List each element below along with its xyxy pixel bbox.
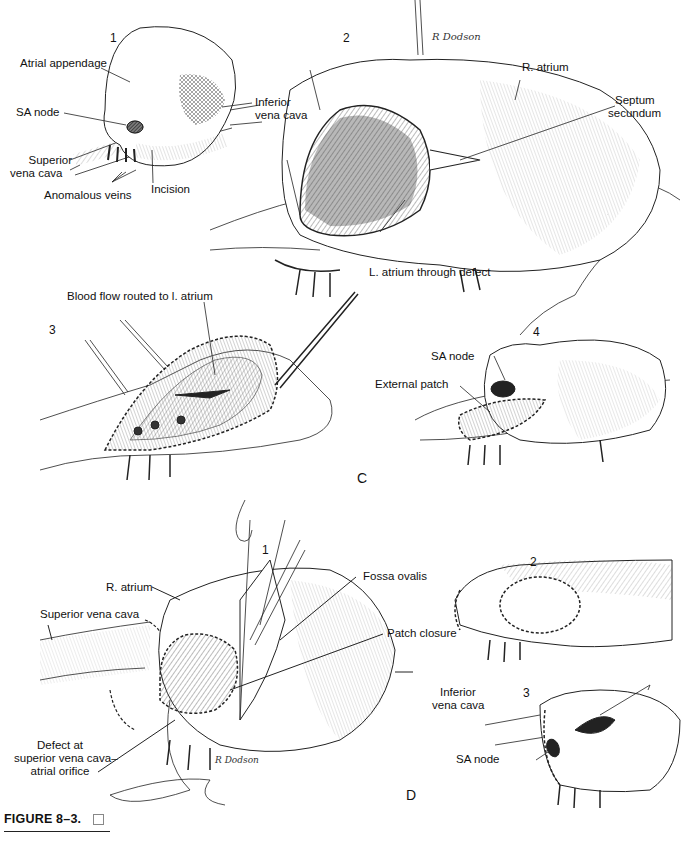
illustration-c2: R Dodson — [210, 0, 680, 297]
c2-number: 2 — [343, 31, 350, 45]
label-superior-vena-cava-c1b: vena cava — [10, 167, 62, 180]
d1-number: 1 — [262, 543, 269, 557]
c1-number: 1 — [110, 31, 117, 45]
d2-number: 2 — [530, 555, 537, 569]
label-incision: Incision — [151, 183, 190, 196]
figure-caption-text: FIGURE 8–3. — [4, 812, 81, 826]
label-defect-a: Defect at — [14, 739, 106, 752]
label-septum-secundum-a: Septum — [615, 94, 655, 107]
label-external-patch: External patch — [375, 378, 449, 391]
illustration-c1 — [64, 27, 262, 183]
label-defect-c: atrial orifice — [14, 765, 106, 778]
label-blood-flow: Blood flow routed to l. atrium — [67, 290, 213, 303]
c3-number: 3 — [49, 323, 56, 337]
label-inferior-vena-cava-d1b: vena cava — [432, 699, 484, 712]
label-sa-node-c4: SA node — [431, 350, 474, 363]
label-superior-vena-cava-c1a: Superior — [20, 154, 72, 167]
illustration-c3 — [40, 292, 358, 480]
c4-number: 4 — [533, 325, 540, 339]
label-inferior-vena-cava-c1a: Inferior — [255, 96, 291, 109]
label-sa-node-c1: SA node — [16, 106, 59, 119]
label-inferior-vena-cava-c1b: vena cava — [255, 109, 307, 122]
checkbox-icon — [93, 814, 104, 825]
illustration-d3 — [485, 685, 680, 808]
figure-caption: FIGURE 8–3. — [4, 812, 104, 826]
label-r-atrium-c2: R. atrium — [522, 61, 569, 74]
label-fossa-ovalis: Fossa ovalis — [363, 570, 427, 583]
label-sa-node-d3: SA node — [456, 753, 499, 766]
panel-letter-d: D — [406, 787, 416, 803]
label-defect-b: superior vena cava– — [14, 752, 118, 765]
panel-letter-c: C — [357, 470, 367, 486]
label-patch-closure: Patch closure — [387, 627, 457, 640]
d3-number: 3 — [523, 686, 530, 700]
caption-underline — [4, 831, 110, 832]
label-atrial-appendage: Atrial appendage — [20, 57, 107, 70]
signature-d1: R Dodson — [214, 755, 259, 765]
label-inferior-vena-cava-d1a: Inferior — [440, 686, 476, 699]
label-septum-secundum-b: secundum — [608, 107, 661, 120]
label-l-atrium-through-defect: L. atrium through defect — [369, 266, 490, 279]
label-r-atrium-d1: R. atrium — [106, 581, 153, 594]
surgical-illustrations: R Dodson — [0, 0, 692, 844]
label-superior-vena-cava-d1: Superior vena cava — [40, 608, 139, 621]
label-anomalous-veins: Anomalous veins — [44, 189, 132, 202]
illustration-d2 — [455, 560, 672, 662]
signature-c2: R Dodson — [431, 31, 481, 42]
